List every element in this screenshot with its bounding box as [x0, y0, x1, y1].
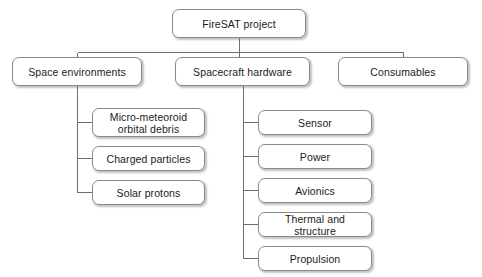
node-label: Avionics	[291, 185, 339, 197]
node-consumables[interactable]: Consumables	[338, 57, 468, 86]
node-label: Space environments	[24, 66, 130, 78]
node-label: Spacecraft hardware	[189, 66, 296, 78]
node-power[interactable]: Power	[258, 144, 372, 169]
node-label: Propulsion	[286, 253, 345, 265]
node-label: Sensor	[294, 117, 336, 129]
node-label: Solar protons	[113, 187, 185, 199]
connector-lines	[0, 0, 482, 277]
node-spacecraft-hardware[interactable]: Spacecraft hardware	[175, 57, 310, 86]
node-space-environments[interactable]: Space environments	[12, 57, 142, 86]
node-charged-particles[interactable]: Charged particles	[92, 146, 205, 171]
node-firesat-project[interactable]: FireSAT project	[172, 9, 306, 38]
node-label: FireSAT project	[198, 18, 279, 30]
node-micro-meteoroid-orbital-debris[interactable]: Micro-meteoroid orbital debris	[92, 108, 205, 137]
node-label: Thermal and structure	[259, 213, 371, 237]
node-thermal-and-structure[interactable]: Thermal and structure	[258, 212, 372, 237]
node-label: Micro-meteoroid orbital debris	[106, 111, 191, 135]
node-sensor[interactable]: Sensor	[258, 110, 372, 135]
node-avionics[interactable]: Avionics	[258, 178, 372, 203]
node-label: Power	[296, 151, 334, 163]
node-label: Consumables	[366, 66, 439, 78]
node-propulsion[interactable]: Propulsion	[258, 246, 372, 271]
node-label: Charged particles	[103, 153, 195, 165]
node-solar-protons[interactable]: Solar protons	[92, 180, 205, 205]
wbs-diagram: FireSAT project Space environments Space…	[0, 0, 482, 277]
